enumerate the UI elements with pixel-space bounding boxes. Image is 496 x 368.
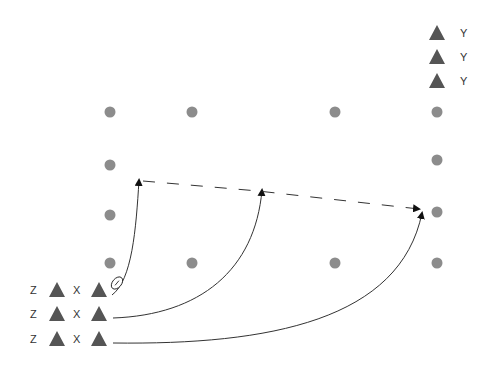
cone-dot (432, 258, 443, 269)
route-3 (113, 213, 422, 343)
players: YYYZZZXXX (30, 25, 468, 346)
football-icon (109, 275, 125, 292)
pass-line (143, 181, 419, 209)
player-triangle-icon (49, 306, 65, 321)
cone-dot (432, 207, 443, 218)
play-diagram: YYYZZZXXX (0, 0, 496, 368)
player-label: Z (30, 333, 37, 345)
player-label: X (73, 308, 81, 320)
cone-dot (330, 107, 341, 118)
player-label: Y (460, 51, 468, 63)
player-triangle-icon (91, 331, 107, 346)
player-label: Z (30, 308, 37, 320)
cone-dot (330, 258, 341, 269)
player-label: Z (30, 284, 37, 296)
player-triangle-icon (429, 49, 445, 64)
cone-dot (105, 160, 116, 171)
route-2 (113, 190, 262, 318)
cone-dot (105, 107, 116, 118)
player-label: Y (460, 27, 468, 39)
player-triangle-icon (49, 331, 65, 346)
player-label: X (73, 333, 81, 345)
player-label: Y (460, 75, 468, 87)
player-triangle-icon (429, 73, 445, 88)
route-lines (112, 180, 422, 343)
cone-dot (105, 210, 116, 221)
cone-dot (187, 258, 198, 269)
cone-dot (432, 107, 443, 118)
player-triangle-icon (91, 306, 107, 321)
cone-dot (187, 107, 198, 118)
cone-markers (105, 107, 443, 269)
player-triangle-icon (49, 282, 65, 297)
cone-dot (432, 155, 443, 166)
player-triangle-icon (91, 282, 107, 297)
cone-dot (105, 258, 116, 269)
player-label: X (73, 284, 81, 296)
player-triangle-icon (429, 25, 445, 40)
